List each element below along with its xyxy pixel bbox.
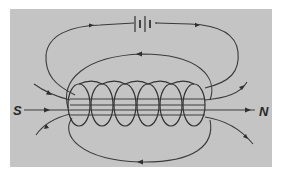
solenoid-diagram: S N (0, 0, 282, 177)
north-pole-label: N (259, 104, 269, 119)
south-pole-label: S (13, 103, 22, 118)
